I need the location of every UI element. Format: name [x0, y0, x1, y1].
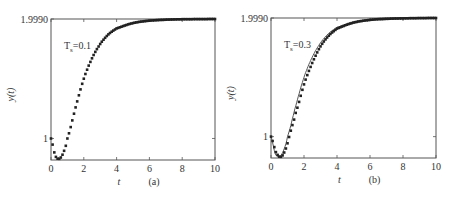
data-marker: [96, 48, 99, 51]
x-tick-label: 6: [147, 163, 152, 174]
data-marker: [283, 151, 286, 154]
data-marker: [321, 43, 324, 46]
data-marker: [303, 83, 306, 86]
x-tick-label: 0: [49, 163, 54, 174]
data-marker: [281, 154, 284, 157]
data-marker: [286, 142, 289, 145]
data-marker: [308, 70, 311, 73]
data-marker: [91, 57, 94, 60]
x-tick-label: 8: [180, 163, 185, 174]
panel-label: (a): [148, 176, 159, 188]
data-marker: [314, 54, 317, 57]
data-marker: [92, 54, 95, 57]
data-marker: [301, 89, 304, 92]
x-tick-label: 4: [114, 163, 119, 174]
data-marker: [99, 43, 102, 46]
y-tick-label: 1: [263, 131, 268, 142]
data-marker: [271, 140, 274, 143]
data-marker: [275, 151, 278, 154]
sample-time-annotation: Ts=0.1: [64, 40, 91, 54]
data-marker: [66, 137, 69, 140]
x-tick-label: 4: [335, 161, 340, 172]
data-marker: [313, 58, 316, 61]
data-marker: [435, 17, 438, 20]
data-marker: [71, 119, 74, 122]
data-marker: [306, 74, 309, 77]
data-marker: [89, 61, 92, 64]
x-tick-label: 2: [81, 163, 86, 174]
x-tick-label: 0: [269, 161, 274, 172]
data-marker: [73, 112, 76, 115]
y-axis-label: y(t): [5, 87, 17, 103]
data-marker: [53, 151, 56, 154]
data-marker: [74, 106, 77, 109]
data-marker: [298, 101, 301, 104]
data-marker: [61, 153, 64, 156]
data-marker: [63, 150, 66, 153]
data-marker: [309, 66, 312, 69]
chart-panel-a: 024681011.9990t(a)y(t)Ts=0.1: [5, 14, 220, 189]
y-axis-label: y(t): [225, 85, 237, 101]
data-marker: [288, 136, 291, 139]
data-marker: [65, 145, 68, 148]
data-marker: [299, 95, 302, 98]
x-axis-label: t: [338, 174, 341, 185]
data-marker: [81, 83, 84, 86]
data-marker: [50, 137, 53, 140]
x-tick-label: 2: [302, 161, 307, 172]
figure: 024681011.9990t(a)y(t)Ts=0.1024681011.99…: [0, 0, 453, 197]
data-marker: [94, 51, 97, 54]
x-tick-label: 6: [368, 161, 373, 172]
chart-panel-b: 024681011.9990t(b)y(t)Ts=0.3: [225, 13, 441, 187]
data-marker: [83, 77, 86, 80]
data-marker: [97, 45, 100, 48]
data-marker: [311, 62, 314, 65]
data-marker: [290, 129, 293, 132]
x-tick-label: 10: [210, 163, 220, 174]
data-marker: [76, 100, 79, 103]
panel-label: (b): [369, 174, 381, 186]
data-marker: [304, 78, 307, 81]
data-marker: [291, 124, 294, 127]
data-marker: [84, 73, 87, 76]
y-tick-label: 1: [43, 133, 48, 144]
data-marker: [273, 146, 276, 149]
x-tick-label: 8: [401, 161, 406, 172]
data-marker: [60, 156, 63, 159]
data-marker: [316, 51, 319, 54]
data-marker: [318, 48, 321, 51]
data-marker: [285, 147, 288, 150]
data-marker: [79, 88, 82, 91]
data-marker: [78, 94, 81, 97]
data-marker: [293, 118, 296, 121]
data-marker: [87, 64, 90, 67]
data-marker: [296, 106, 299, 109]
data-marker: [69, 126, 72, 129]
x-tick-label: 10: [431, 161, 441, 172]
data-marker: [214, 18, 217, 21]
data-marker: [294, 112, 297, 115]
y-tick-label: 1.9990: [241, 13, 269, 24]
data-marker: [68, 132, 71, 135]
data-marker: [86, 68, 89, 71]
data-marker: [270, 135, 273, 138]
y-tick-label: 1.9990: [21, 14, 49, 25]
data-marker: [51, 143, 54, 146]
x-axis-label: t: [118, 176, 121, 187]
sample-time-annotation: Ts=0.3: [284, 39, 311, 53]
data-marker: [319, 45, 322, 48]
